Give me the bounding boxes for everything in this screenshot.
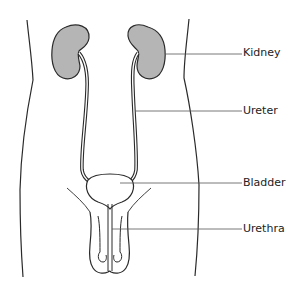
corpus-left	[98, 216, 106, 262]
bladder	[86, 174, 133, 209]
kidney-left	[52, 25, 89, 79]
label-urethra: Urethra	[243, 223, 285, 235]
diagram-artwork	[0, 0, 296, 293]
label-bladder: Bladder	[243, 177, 286, 189]
corpus-right	[114, 216, 122, 262]
body-outline-right	[184, 19, 199, 276]
label-kidney: Kidney	[243, 47, 281, 59]
penis-outline	[89, 212, 129, 273]
urinary-system-diagram: Kidney Ureter Bladder Urethra	[0, 0, 296, 293]
body-outline-left	[20, 20, 33, 277]
label-ureter: Ureter	[243, 105, 278, 117]
groin-line-left	[67, 188, 90, 212]
